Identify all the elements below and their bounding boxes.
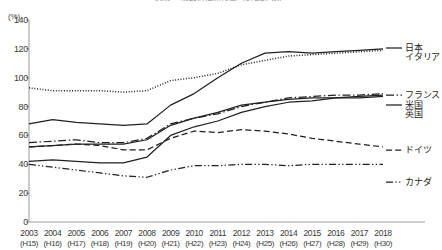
legend-label-英国: 英国	[405, 109, 423, 119]
legend-label-カナダ: カナダ	[405, 177, 431, 187]
legend-label-イタリア: イタリア	[405, 52, 440, 62]
legend-label-ドイツ: ドイツ	[405, 145, 431, 155]
chart-legend: 日本イタリアフランス米国英国ドイツカナダ	[0, 0, 442, 250]
chart-container: 図表 一般政府債務残高（対GDP比） (%) 02040608010012014…	[0, 0, 442, 250]
legend-label-フランス: フランス	[405, 90, 440, 100]
